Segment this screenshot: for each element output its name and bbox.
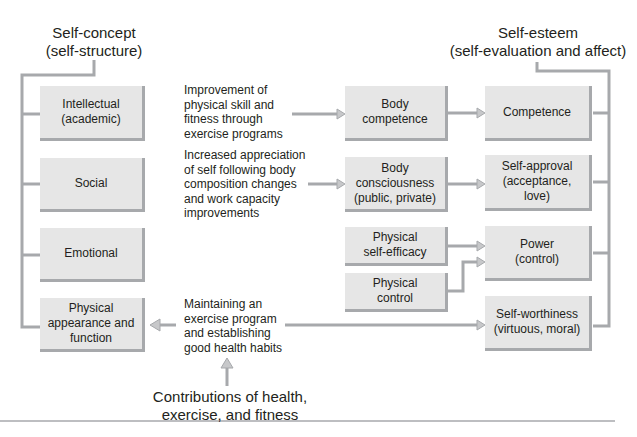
note-line: physical skill and (184, 98, 283, 113)
note-appreciation: Increased appreciation of self following… (184, 148, 305, 221)
domain-emotional: Emotional (40, 228, 145, 282)
box-line: function (48, 331, 135, 346)
arrowhead (477, 241, 485, 251)
contributions-heading: Contributions of health, exercise, and f… (140, 388, 320, 424)
box-line: Intellectual (61, 97, 120, 112)
box-line: self-efficacy (363, 245, 426, 260)
box-body-consciousness: Bodyconsciousness(public, private) (345, 157, 448, 212)
note-line: Increased appreciation (184, 148, 305, 163)
box-physical-control: Physicalcontrol (345, 273, 448, 312)
box-line: Self-approval (502, 159, 573, 174)
heading-line: (self-structure) (18, 42, 170, 60)
note-line: and establishing (184, 326, 282, 341)
box-competence: Competence (485, 86, 592, 141)
note-line: Improvement of (184, 83, 283, 98)
box-line: Competence (503, 105, 571, 120)
box-line: Physical (373, 276, 418, 291)
box-line: (control) (515, 252, 559, 267)
arrowhead (150, 319, 160, 331)
box-line: control (373, 291, 418, 306)
box-line: consciousness (354, 176, 436, 191)
arrowhead (221, 358, 233, 368)
self-esteem-heading: Self-esteem (self-evaluation and affect) (438, 24, 637, 60)
domain-social: Social (40, 158, 145, 212)
box-line: Emotional (64, 246, 117, 261)
arrowhead (477, 108, 485, 118)
box-line: Power (515, 237, 559, 252)
connector-layer (0, 0, 637, 437)
box-self-approval: Self-approval(acceptance,love) (485, 155, 592, 211)
arrowhead (477, 257, 485, 267)
self-concept-heading: Self-concept (self-structure) (18, 24, 170, 60)
heading-line: Self-concept (18, 24, 170, 42)
box-power: Power(control) (485, 226, 592, 281)
domain-physical: Physicalappearance andfunction (40, 298, 145, 352)
arrowhead (477, 320, 485, 330)
box-physical-self-efficacy: Physicalself-efficacy (345, 227, 448, 266)
box-line: Self-worthiness (494, 307, 581, 322)
arrowhead (477, 179, 485, 189)
arrowhead (337, 109, 345, 119)
note-maintaining: Maintaining an exercise program and esta… (184, 297, 282, 355)
box-line: Physical (48, 301, 135, 316)
note-line: and work capacity (184, 192, 305, 207)
note-line: composition changes (184, 177, 305, 192)
note-line: fitness through (184, 112, 283, 127)
box-line: Body (354, 161, 436, 176)
note-line: Maintaining an (184, 297, 282, 312)
box-line: love) (502, 189, 573, 204)
box-line: (academic) (61, 112, 120, 127)
heading-line: exercise, and fitness (140, 406, 320, 424)
note-line: exercise programs (184, 127, 283, 142)
heading-line: (self-evaluation and affect) (438, 42, 637, 60)
box-line: appearance and (48, 316, 135, 331)
note-line: good health habits (184, 341, 282, 356)
note-line: of self following body (184, 163, 305, 178)
box-line: Social (75, 176, 108, 191)
box-line: (public, private) (354, 191, 436, 206)
note-skill: Improvement of physical skill and fitnes… (184, 83, 283, 141)
note-line: improvements (184, 206, 305, 221)
box-self-worthiness: Self-worthiness(virtuous, moral) (485, 296, 592, 351)
domain-intellectual: Intellectual(academic) (40, 86, 145, 141)
box-line: (virtuous, moral) (494, 322, 581, 337)
box-body-competence: Bodycompetence (345, 86, 448, 141)
heading-line: Self-esteem (438, 24, 637, 42)
arrowhead (337, 179, 345, 189)
box-line: Body (362, 97, 427, 112)
box-line: competence (362, 112, 427, 127)
box-line: (acceptance, (502, 174, 573, 189)
note-line: exercise program (184, 312, 282, 327)
box-line: Physical (363, 230, 426, 245)
heading-line: Contributions of health, (140, 388, 320, 406)
